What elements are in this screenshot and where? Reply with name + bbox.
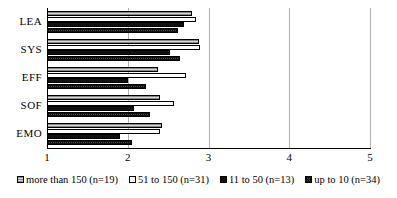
x-tick-1: 1: [37, 151, 57, 163]
bar: [47, 11, 192, 16]
bar: [47, 95, 160, 100]
bar: [47, 28, 178, 33]
bar: [47, 45, 200, 50]
gridline-5: [370, 8, 371, 148]
bar: [47, 73, 186, 78]
category-label-sys: SYS: [0, 44, 42, 55]
legend-item[interactable]: more than 150 (n=19): [17, 174, 118, 185]
bar-chart: LEASYSEFFSOFEMO 12345 more than 150 (n=1…: [0, 0, 397, 198]
legend-item[interactable]: 11 to 50 (n=13): [220, 174, 294, 185]
category-label-eff: EFF: [0, 72, 42, 83]
bar-group: [47, 92, 370, 120]
bar: [47, 22, 184, 27]
plot-area: [47, 8, 370, 148]
legend-item[interactable]: 51 to 150 (n=31): [129, 174, 209, 185]
bar: [47, 84, 146, 89]
chart-legend: more than 150 (n=19)51 to 150 (n=31)11 t…: [0, 174, 397, 185]
bar: [47, 67, 158, 72]
x-tick-2: 2: [118, 151, 138, 163]
legend-label: up to 10 (n=34): [314, 174, 380, 185]
legend-swatch-icon: [17, 176, 24, 183]
bar: [47, 17, 196, 22]
legend-swatch-icon: [129, 176, 136, 183]
legend-label: 51 to 150 (n=31): [138, 174, 209, 185]
legend-swatch-icon: [305, 176, 312, 183]
category-label-sof: SOF: [0, 100, 42, 111]
x-tick-5: 5: [360, 151, 380, 163]
bar: [47, 112, 150, 117]
legend-label: 11 to 50 (n=13): [229, 174, 294, 185]
legend-label: more than 150 (n=19): [26, 174, 118, 185]
legend-item[interactable]: up to 10 (n=34): [305, 174, 380, 185]
bar: [47, 50, 170, 55]
bar-group: [47, 120, 370, 148]
bar-group: [47, 8, 370, 36]
x-tick-3: 3: [199, 151, 219, 163]
x-axis-line: [47, 148, 371, 149]
bar-group: [47, 36, 370, 64]
bar: [47, 39, 199, 44]
bar: [47, 123, 162, 128]
bar: [47, 129, 160, 134]
legend-swatch-icon: [220, 176, 227, 183]
category-label-emo: EMO: [0, 128, 42, 139]
bar: [47, 78, 128, 83]
category-label-lea: LEA: [0, 16, 42, 27]
bar: [47, 101, 174, 106]
bar: [47, 140, 132, 145]
bar: [47, 106, 134, 111]
bar: [47, 134, 120, 139]
bar-group: [47, 64, 370, 92]
x-tick-4: 4: [279, 151, 299, 163]
bar: [47, 56, 180, 61]
